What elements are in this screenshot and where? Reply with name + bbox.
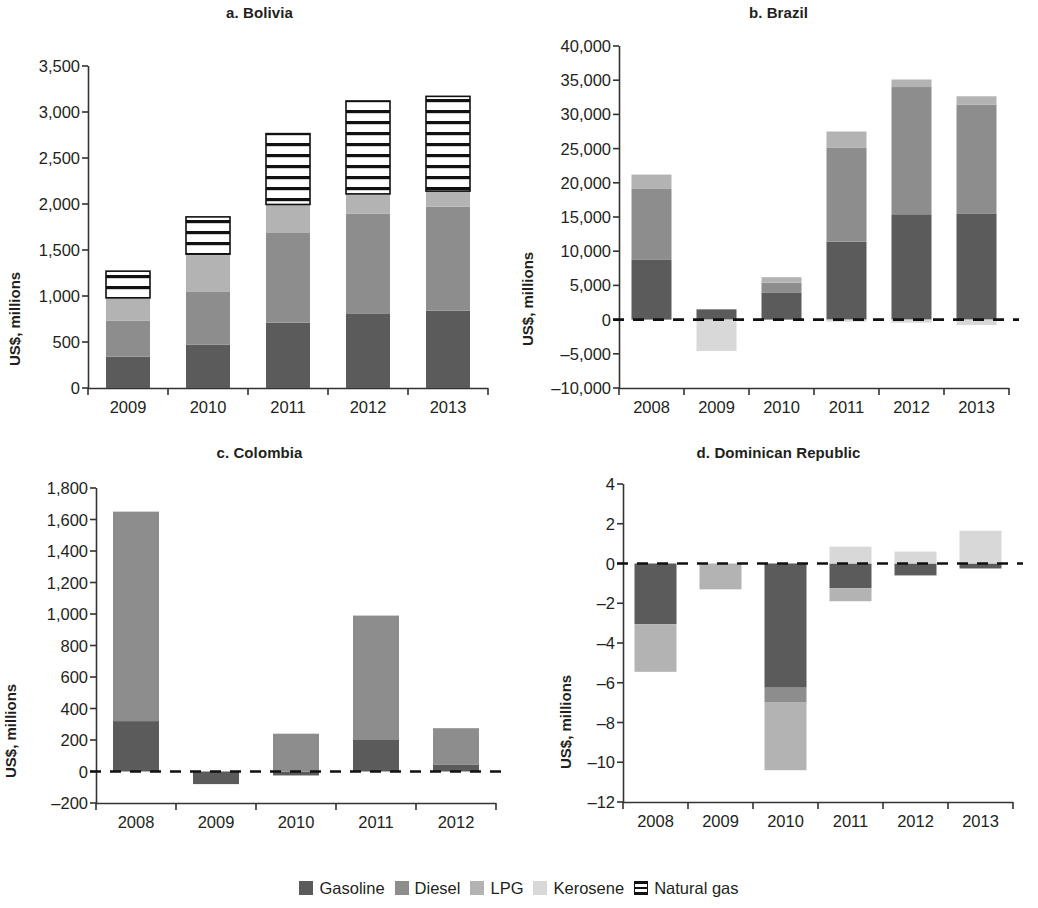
plot-d-bar-segment xyxy=(700,564,742,590)
plot-c-x-tick-label: 2008 xyxy=(96,813,176,832)
plot-d-y-tick-label: –12 xyxy=(573,793,615,812)
panel-grid: a. Bolivia US$, millions05001,0001,5002,… xyxy=(0,0,1038,868)
plot-d-y-tick-label: 0 xyxy=(573,554,615,573)
legend-item-diesel: Diesel xyxy=(395,879,461,898)
plot-a-bar-segment xyxy=(426,191,470,207)
plot-d-bar-segment xyxy=(765,688,807,703)
plot-c-x-tick-label: 2009 xyxy=(176,813,256,832)
plot-a-bar-segment xyxy=(346,101,390,194)
panel-b-title: b. Brazil xyxy=(519,4,1038,21)
plot-b-bar-segment xyxy=(957,96,997,104)
plot-b-bar-segment xyxy=(827,148,867,242)
plot-a-x-tick-label: 2010 xyxy=(168,398,248,417)
plot-a-bar-segment xyxy=(426,96,470,191)
panel-a-title: a. Bolivia xyxy=(0,4,519,21)
plot-b-x-tick-label: 2009 xyxy=(684,398,749,417)
legend-label-natural_gas: Natural gas xyxy=(654,879,738,898)
legend-item-lpg: LPG xyxy=(470,879,523,898)
legend-swatch-lpg-icon xyxy=(470,881,484,895)
panel-d-title: d. Dominican Republic xyxy=(519,444,1038,461)
legend-item-gasoline: Gasoline xyxy=(299,879,384,898)
plot-b-x-tick-label: 2010 xyxy=(749,398,814,417)
plot-b-bar-segment xyxy=(632,189,672,259)
plot-c-y-tick-label: 0 xyxy=(16,762,88,781)
plot-b-y-tick-label: –10,000 xyxy=(533,379,611,398)
plot-b-bar-segment xyxy=(697,309,737,319)
plot-a-bar-segment xyxy=(106,357,150,388)
plot-c-y-tick-label: 1,200 xyxy=(16,573,88,592)
plot-a-bar-segment xyxy=(186,217,230,254)
plot-d-y-tick-label: –8 xyxy=(573,713,615,732)
plot-a-y-tick-label: 500 xyxy=(18,333,80,352)
plot-a-bar-segment xyxy=(106,271,150,298)
legend-label-lpg: LPG xyxy=(490,879,523,898)
plot-d-y-tick-label: 2 xyxy=(573,514,615,533)
plot-b-x-tick-label: 2012 xyxy=(879,398,944,417)
plot-c-bar-segment xyxy=(193,772,239,785)
panel-b-brazil: b. Brazil US$, millions–10,000–5,00005,0… xyxy=(519,0,1038,440)
plot-d-x-tick-label: 2008 xyxy=(623,812,688,831)
plot-a-y-tick-label: 2,000 xyxy=(18,195,80,214)
plot-b-bar-segment xyxy=(957,214,997,320)
plot-a-bar-segment xyxy=(266,323,310,388)
panel-a-plot: US$, millions05001,0001,5002,0002,5003,0… xyxy=(88,66,488,388)
plot-b-x-tick-label: 2011 xyxy=(814,398,879,417)
plot-c-y-tick-label: 400 xyxy=(16,699,88,718)
plot-d-y-tick-label: –6 xyxy=(573,673,615,692)
plot-a-y-tick-label: 0 xyxy=(18,379,80,398)
plot-c-bar-segment xyxy=(433,728,479,764)
chart-legend: GasolineDieselLPGKeroseneNatural gas xyxy=(0,868,1038,908)
plot-a-x-tick-label: 2013 xyxy=(408,398,488,417)
plot-b-bar-segment xyxy=(892,87,932,214)
legend-swatch-gasoline-icon xyxy=(299,881,313,895)
plot-a-y-tick-label: 1,000 xyxy=(18,287,80,306)
plot-a-x-tick-label: 2011 xyxy=(248,398,328,417)
panel-c-colombia: c. Colombia US$, millions–20002004006008… xyxy=(0,440,519,868)
legend-label-gasoline: Gasoline xyxy=(319,879,384,898)
plot-d-x-tick-label: 2013 xyxy=(948,812,1013,831)
plot-a-bar-segment xyxy=(346,214,390,314)
plot-a-y-tick-label: 3,000 xyxy=(18,103,80,122)
plot-d-x-tick-label: 2009 xyxy=(688,812,753,831)
plot-b-canvas xyxy=(619,46,1009,390)
plot-c-y-tick-label: 600 xyxy=(16,668,88,687)
plot-a-x-tick-label: 2012 xyxy=(328,398,408,417)
plot-a-bar-segment xyxy=(346,194,390,214)
plot-b-y-tick-label: 0 xyxy=(533,310,611,329)
plot-b-bar-segment xyxy=(762,277,802,282)
plot-a-bar-segment xyxy=(266,134,310,205)
plot-b-y-tick-label: 25,000 xyxy=(533,139,611,158)
plot-c-y-tick-label: 1,400 xyxy=(16,542,88,561)
plot-d-y-tick-label: 4 xyxy=(573,475,615,494)
plot-d-y-tick-label: –2 xyxy=(573,594,615,613)
plot-a-bar-segment xyxy=(186,254,230,291)
plot-a-bar-segment xyxy=(346,314,390,388)
plot-c-x-tick-label: 2011 xyxy=(336,813,416,832)
plot-b-y-tick-label: 5,000 xyxy=(533,276,611,295)
plot-d-bar-segment xyxy=(635,564,677,625)
plot-b-y-tick-label: –5,000 xyxy=(533,344,611,363)
panel-b-plot: US$, millions–10,000–5,00005,00010,00015… xyxy=(619,46,1009,388)
legend-swatch-natural_gas-icon xyxy=(634,881,648,895)
plot-c-bar-segment xyxy=(113,721,159,771)
plot-d-y-axis-label: US$, millions xyxy=(557,675,574,769)
figure-root: a. Bolivia US$, millions05001,0001,5002,… xyxy=(0,0,1038,908)
plot-a-canvas xyxy=(88,66,488,390)
panel-a-bolivia: a. Bolivia US$, millions05001,0001,5002,… xyxy=(0,0,519,440)
plot-c-x-tick-label: 2012 xyxy=(416,813,496,832)
plot-d-bar-segment xyxy=(895,552,937,564)
legend-item-kerosene: Kerosene xyxy=(533,879,624,898)
plot-b-y-tick-label: 15,000 xyxy=(533,208,611,227)
plot-d-bar-segment xyxy=(895,564,937,576)
plot-c-y-tick-label: 1,800 xyxy=(16,479,88,498)
plot-b-y-tick-label: 10,000 xyxy=(533,242,611,261)
plot-c-y-tick-label: 200 xyxy=(16,731,88,750)
plot-d-x-tick-label: 2012 xyxy=(883,812,948,831)
plot-d-x-tick-label: 2010 xyxy=(753,812,818,831)
plot-c-canvas xyxy=(96,488,496,805)
plot-a-bar-segment xyxy=(266,204,310,233)
panel-c-plot: US$, millions–20002004006008001,0001,200… xyxy=(96,488,496,803)
plot-a-bar-segment xyxy=(426,207,470,311)
plot-b-bar-segment xyxy=(697,320,737,351)
plot-c-y-tick-label: 1,600 xyxy=(16,510,88,529)
